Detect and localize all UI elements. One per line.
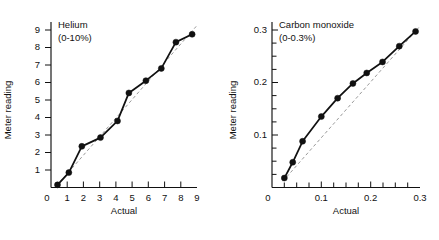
reference-line-carbon-monoxide xyxy=(283,28,419,182)
data-point xyxy=(318,114,324,120)
y-tick-label: 8 xyxy=(35,41,40,52)
data-point xyxy=(300,138,306,144)
x-tick-label: 0.2 xyxy=(364,192,377,203)
y-axis-tick-labels: 9 8 7 6 5 4 3 2 1 xyxy=(35,24,40,175)
x-axis-title: Actual xyxy=(111,205,137,216)
y-tick-label: 3 xyxy=(35,129,40,140)
y-axis-ticks xyxy=(45,30,51,170)
data-point xyxy=(290,159,296,165)
y-tick-label: 5 xyxy=(35,94,40,105)
data-point xyxy=(413,28,419,34)
data-point xyxy=(143,78,149,84)
x-axis-tick-labels: 0 0.1 0.2 0.3 xyxy=(265,192,426,203)
data-point xyxy=(281,175,287,181)
y-tick-label: 1 xyxy=(35,164,40,175)
x-axis-title: Actual xyxy=(333,205,359,216)
calibration-figure: Meter reading 9 8 7 6 5 4 3 2 1 xyxy=(0,0,439,240)
x-tick-label: 8 xyxy=(178,192,183,203)
data-point xyxy=(396,43,402,49)
y-axis-title: Meter reading xyxy=(227,81,238,140)
y-axis-ticks xyxy=(272,30,278,174)
x-tick-label: 0.3 xyxy=(413,192,426,203)
data-point xyxy=(158,65,164,71)
y-tick-label: 4 xyxy=(35,111,40,122)
panel-subtitle: (0-10%) xyxy=(58,32,92,43)
y-axis-tick-labels: 0.3 0.2 0.1 xyxy=(254,24,267,140)
y-tick-label: 0.2 xyxy=(254,76,267,87)
data-point xyxy=(115,118,121,124)
data-point xyxy=(350,80,356,86)
x-tick-label: 0 xyxy=(265,192,270,203)
y-axis-title: Meter reading xyxy=(2,81,13,140)
data-point xyxy=(173,39,179,45)
data-point xyxy=(126,90,132,96)
x-tick-label: 0 xyxy=(44,192,49,203)
x-tick-label: 3 xyxy=(97,192,102,203)
x-tick-label: 0.1 xyxy=(315,192,328,203)
carbon-monoxide-chart-svg: Meter reading 0.3 0.2 0.1 xyxy=(219,0,439,240)
panel-title: Carbon monoxide xyxy=(279,19,354,30)
y-tick-label: 0.1 xyxy=(254,129,267,140)
data-point xyxy=(66,170,72,176)
x-tick-label: 9 xyxy=(194,192,199,203)
reference-line-helium xyxy=(57,26,197,185)
x-tick-label: 5 xyxy=(129,192,134,203)
x-tick-label: 7 xyxy=(162,192,167,203)
x-axis-ticks xyxy=(67,182,181,188)
x-axis-ticks xyxy=(284,182,407,188)
y-tick-label: 2 xyxy=(35,146,40,157)
x-tick-label: 6 xyxy=(146,192,151,203)
y-tick-label: 0.3 xyxy=(254,24,267,35)
data-point xyxy=(380,59,386,65)
helium-chart-svg: Meter reading 9 8 7 6 5 4 3 2 1 xyxy=(0,0,220,240)
panel-title: Helium xyxy=(58,19,88,30)
x-tick-label: 4 xyxy=(113,192,118,203)
x-tick-label: 1 xyxy=(65,192,70,203)
data-point xyxy=(364,70,370,76)
x-tick-label: 2 xyxy=(81,192,86,203)
data-point xyxy=(189,31,195,37)
data-point xyxy=(335,95,341,101)
data-point xyxy=(54,182,60,188)
x-axis-tick-labels: 0 1 2 3 4 5 6 7 8 9 xyxy=(44,192,199,203)
data-point xyxy=(79,143,85,149)
y-tick-label: 6 xyxy=(35,76,40,87)
chart-panel-carbon-monoxide: Meter reading 0.3 0.2 0.1 xyxy=(219,0,439,240)
data-point xyxy=(97,135,103,141)
y-tick-label: 7 xyxy=(35,59,40,70)
panel-subtitle: (0-0.3%) xyxy=(279,32,315,43)
chart-panel-helium: Meter reading 9 8 7 6 5 4 3 2 1 xyxy=(0,0,220,240)
data-markers-helium xyxy=(54,31,195,188)
y-tick-label: 9 xyxy=(35,24,40,35)
